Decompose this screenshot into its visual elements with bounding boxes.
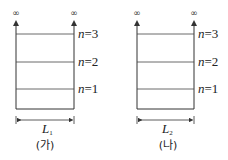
level-label-n1-a: n=1 (78, 81, 98, 96)
level-label-n2-a: n=2 (78, 54, 98, 69)
well-diagram-b: ∞ ∞ n=3 n=2 n=1 L2 (나) (133, 8, 218, 152)
infinity-left-a: ∞ (12, 8, 20, 18)
infinite-well-diagrams: ∞ ∞ n=3 n=2 n=1 L1 (가) ∞ ∞ n=3 n=2 n=1 L… (0, 0, 228, 160)
level-label-n1-b: n=1 (198, 81, 218, 96)
level-label-n3-b: n=3 (198, 26, 218, 41)
well-diagram-a: ∞ ∞ n=3 n=2 n=1 L1 (가) (12, 8, 98, 152)
width-label-b: L2 (161, 121, 173, 137)
level-label-n2-b: n=2 (198, 54, 218, 69)
infinity-right-a: ∞ (70, 8, 78, 18)
caption-a: (가) (36, 139, 55, 152)
width-label-a: L1 (41, 121, 53, 137)
infinity-left-b: ∞ (133, 8, 141, 18)
infinity-right-b: ∞ (190, 8, 198, 18)
level-label-n3-a: n=3 (78, 26, 98, 41)
caption-b: (나) (159, 139, 178, 152)
